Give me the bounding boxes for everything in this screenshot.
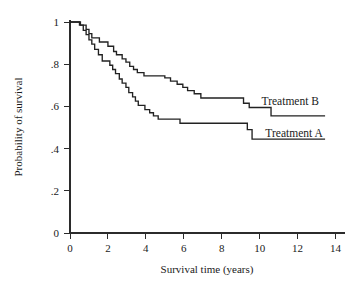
x-axis-title: Survival time (years) (161, 263, 254, 276)
x-axis-tick-label: 0 (67, 242, 73, 254)
x-axis-tick-label: 4 (143, 242, 149, 254)
y-axis-tick-label: .4 (51, 143, 60, 155)
x-axis-tick-labels: 02468101214 (67, 242, 341, 254)
series-label-treatment-a: Treatment A (265, 127, 323, 139)
series-path-group (70, 22, 325, 139)
y-axis-tick-label: .8 (51, 58, 60, 70)
x-axis-tick-label: 14 (330, 242, 342, 254)
y-axis-title: Probability of survival (12, 78, 24, 177)
y-axis-tick-label: 0 (54, 227, 60, 239)
y-axis-tick-group (64, 22, 70, 233)
x-axis-tick-label: 8 (219, 242, 225, 254)
y-axis-tick-label: .6 (51, 100, 60, 112)
survival-chart-figure: 0.2.4.6.81 02468101214 Treatment BTreatm… (0, 0, 359, 288)
x-axis-tick-label: 2 (105, 242, 111, 254)
y-axis-tick-labels: 0.2.4.6.81 (51, 16, 60, 239)
x-axis-tick-group (70, 233, 336, 239)
series-line-treatment-a (70, 22, 325, 139)
y-axis-tick-label: 1 (54, 16, 60, 28)
x-axis-tick-label: 12 (292, 242, 303, 254)
x-axis-tick-label: 6 (181, 242, 187, 254)
x-axis-tick-label: 10 (254, 242, 266, 254)
series-label-treatment-b: Treatment B (262, 95, 320, 107)
chart-canvas: 0.2.4.6.81 02468101214 Treatment BTreatm… (0, 0, 359, 288)
y-axis-tick-label: .2 (51, 185, 59, 197)
series-inline-labels: Treatment BTreatment A (262, 95, 324, 139)
